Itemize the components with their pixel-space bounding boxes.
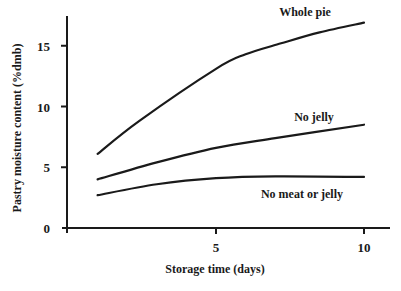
y-ticks: 051015 — [37, 39, 67, 236]
series-labels: Whole pieNo jellyNo meat or jelly — [261, 5, 343, 201]
series-lines — [98, 23, 364, 196]
line-chart: 051015 510 Whole pieNo jellyNo meat or j… — [0, 0, 401, 291]
x-tick-label: 5 — [213, 240, 220, 255]
x-axis-label: Storage time (days) — [165, 262, 264, 276]
y-tick-label: 0 — [44, 221, 51, 236]
series-label: No jelly — [294, 110, 334, 124]
series-line-whole-pie — [98, 23, 364, 154]
series-label: Whole pie — [279, 5, 331, 19]
x-tick-label: 10 — [358, 240, 371, 255]
series-label: No meat or jelly — [261, 187, 343, 201]
y-axis-label: Pastry moisture content (%dmb) — [10, 44, 24, 213]
y-tick-label: 10 — [37, 100, 50, 115]
series-line-no-jelly — [98, 125, 364, 180]
y-tick-label: 5 — [44, 160, 51, 175]
y-tick-label: 15 — [37, 39, 51, 54]
x-ticks: 510 — [213, 228, 371, 255]
